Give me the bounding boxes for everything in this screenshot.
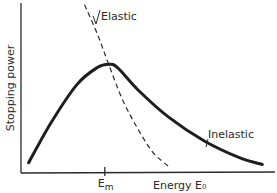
- inelastic-label: Inelastic: [208, 128, 254, 141]
- elastic-label: Elastic: [101, 10, 137, 23]
- elastic-label-leader: [93, 10, 100, 24]
- x-axis-label: Energy E₀: [153, 179, 207, 192]
- elastic-curve: [85, 5, 169, 167]
- inelastic-curve: [29, 64, 263, 164]
- x-tick-label: Em: [98, 177, 114, 192]
- stopping-power-chart: Stopping power Energy E₀ Em Elastic Inel…: [0, 0, 277, 193]
- x-axis: [21, 172, 275, 173]
- y-axis-label: Stopping power: [4, 44, 17, 131]
